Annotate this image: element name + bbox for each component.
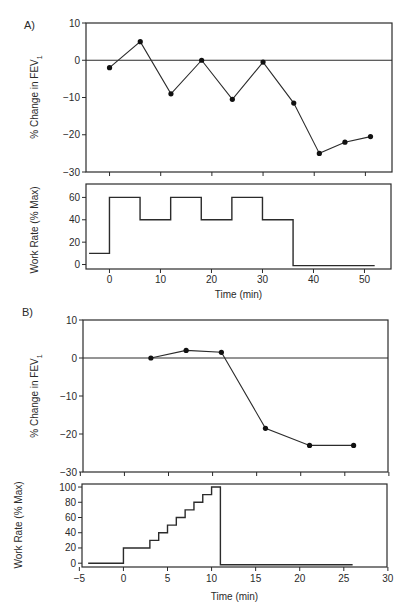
chart-canvas: A) B) 100−10−20−30% Change in FEV1 02040… xyxy=(0,0,411,616)
y-tick-label: 0 xyxy=(74,259,80,270)
y-axis-label: Work Rate (% Max) xyxy=(13,481,24,568)
data-point-marker xyxy=(317,151,322,156)
panel-a-work-rate-plot: 020406001020304050Work Rate (% Max)Time … xyxy=(29,184,391,300)
y-tick-label: 20 xyxy=(65,542,77,553)
y-tick-label: 0 xyxy=(74,55,80,66)
x-tick-label: 10 xyxy=(155,274,167,285)
y-tick-label: 80 xyxy=(65,497,77,508)
y-tick-label: −20 xyxy=(63,129,80,140)
work-rate-step-line xyxy=(88,487,352,565)
data-point-marker xyxy=(184,348,189,353)
panel-label-a: A) xyxy=(24,19,35,31)
panel-b-work-rate-plot: 020406080100−5051015202530Work Rate (% M… xyxy=(13,481,394,602)
work-rate-step-line xyxy=(89,197,375,265)
y-tick-label: 10 xyxy=(69,18,81,29)
y-tick-label: 40 xyxy=(69,214,81,225)
x-tick-label: 30 xyxy=(382,573,394,584)
fev1-series-line xyxy=(110,42,371,154)
y-tick-label: 40 xyxy=(65,527,77,538)
y-tick-label: −30 xyxy=(60,467,77,478)
data-point-marker xyxy=(199,58,204,63)
data-point-marker xyxy=(307,443,312,448)
panel-b-fev1-plot: 100−10−20−30% Change in FEV1 xyxy=(29,315,389,478)
y-tick-label: 10 xyxy=(66,315,78,326)
x-axis-label: Time (min) xyxy=(215,289,262,300)
panel-a-fev1-plot: 100−10−20−30% Change in FEV1 xyxy=(29,18,392,178)
data-point-marker xyxy=(260,60,265,65)
y-tick-label: −20 xyxy=(60,429,77,440)
data-point-marker xyxy=(138,39,143,44)
data-point-marker xyxy=(168,91,173,96)
x-tick-label: 0 xyxy=(107,274,113,285)
y-tick-label: 60 xyxy=(69,192,81,203)
panel-label-b: B) xyxy=(22,306,33,318)
x-tick-label: 30 xyxy=(257,274,269,285)
y-tick-label: −30 xyxy=(63,167,80,178)
data-point-marker xyxy=(368,134,373,139)
data-point-marker xyxy=(351,443,356,448)
y-tick-label: 100 xyxy=(59,482,76,493)
x-tick-label: 25 xyxy=(338,573,350,584)
y-axis-label-subscript: 1 xyxy=(36,354,43,358)
x-tick-label: 50 xyxy=(359,274,371,285)
plot-frame xyxy=(86,23,392,172)
x-tick-label: 15 xyxy=(250,573,262,584)
x-tick-label: 20 xyxy=(294,573,306,584)
figure: A) B) 100−10−20−30% Change in FEV1 02040… xyxy=(0,0,411,616)
y-axis-label: Work Rate (% Max) xyxy=(29,186,40,273)
x-tick-label: 10 xyxy=(206,573,218,584)
data-point-marker xyxy=(107,65,112,70)
y-axis-label-subscript: 1 xyxy=(36,55,43,59)
y-tick-label: 0 xyxy=(70,558,76,569)
x-tick-label: 20 xyxy=(206,274,218,285)
data-point-marker xyxy=(342,140,347,145)
y-tick-label: −10 xyxy=(60,391,77,402)
x-axis-label: Time (min) xyxy=(211,591,258,602)
y-axis-label: % Change in FEV1 xyxy=(29,55,43,139)
y-tick-label: −10 xyxy=(63,92,80,103)
x-tick-label: 5 xyxy=(165,573,171,584)
data-point-marker xyxy=(148,355,153,360)
plot-frame xyxy=(83,320,388,472)
plot-frame xyxy=(82,484,387,567)
data-point-marker xyxy=(219,350,224,355)
data-point-marker xyxy=(263,426,268,431)
data-point-marker xyxy=(291,100,296,105)
x-tick-label: 40 xyxy=(308,274,320,285)
x-tick-label: 0 xyxy=(121,573,127,584)
y-tick-label: 20 xyxy=(69,237,81,248)
y-tick-label: 0 xyxy=(71,353,77,364)
y-tick-label: 60 xyxy=(65,512,77,523)
y-axis-label: % Change in FEV1 xyxy=(29,354,43,438)
fev1-series-line xyxy=(151,350,354,445)
x-tick-label: −5 xyxy=(74,573,86,584)
data-point-marker xyxy=(230,97,235,102)
